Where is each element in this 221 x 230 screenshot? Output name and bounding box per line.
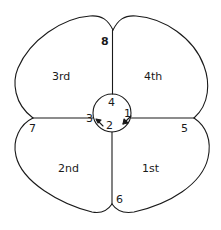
- quadrant-label-1st: 1st: [142, 162, 160, 175]
- four-leaf-diagram: 3rd 4th 2nd 1st 1 2 3 4 8 5 6 7: [0, 0, 221, 230]
- junction-label-5: 5: [181, 122, 188, 135]
- lobe-3rd-outline: [15, 16, 113, 118]
- junction-label-6: 6: [116, 193, 123, 206]
- circle-number-1: 1: [124, 107, 131, 120]
- circle-number-4: 4: [108, 96, 115, 109]
- lobe-1st-outline: [112, 118, 209, 213]
- junction-label-7: 7: [29, 122, 36, 135]
- junction-label-8: 8: [101, 35, 109, 48]
- quadrant-label-4th: 4th: [144, 70, 162, 83]
- quadrant-label-2nd: 2nd: [58, 162, 79, 175]
- circle-number-3: 3: [86, 112, 93, 125]
- circle-number-2: 2: [106, 119, 113, 132]
- quadrant-label-3rd: 3rd: [52, 70, 70, 83]
- lobe-4th-outline: [113, 16, 208, 118]
